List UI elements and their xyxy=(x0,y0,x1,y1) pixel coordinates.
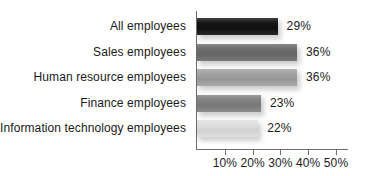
bar-chart: 10%20%30%40%50% All employees29%Sales em… xyxy=(0,0,372,176)
bar-value-label: 29% xyxy=(287,19,311,33)
bar-container xyxy=(197,69,297,86)
axis-tick xyxy=(336,150,337,155)
bar-row: Sales employees36% xyxy=(0,42,372,68)
bar-row: All employees29% xyxy=(0,16,372,42)
bar-row: Information technology employees22% xyxy=(0,118,372,144)
bar-container xyxy=(197,18,278,35)
axis-tick xyxy=(253,150,254,155)
bar xyxy=(197,95,261,112)
bar-row: Human resource employees36% xyxy=(0,67,372,93)
bar-value-label: 36% xyxy=(306,70,330,84)
value-axis-line xyxy=(196,149,348,150)
category-label: Finance employees xyxy=(80,96,186,110)
bar xyxy=(197,69,297,86)
axis-tick-label: 50% xyxy=(319,156,353,170)
bar xyxy=(197,18,278,35)
category-label: Sales employees xyxy=(93,45,186,59)
bar-value-label: 22% xyxy=(267,121,291,135)
bar xyxy=(197,44,297,61)
bar-container xyxy=(197,120,258,137)
bar-container xyxy=(197,95,261,112)
bar-value-label: 36% xyxy=(306,45,330,59)
axis-tick xyxy=(225,150,226,155)
category-label: All employees xyxy=(110,19,186,33)
plot-area: 10%20%30%40%50% All employees29%Sales em… xyxy=(0,0,372,176)
bar-container xyxy=(197,44,297,61)
category-label: Human resource employees xyxy=(34,70,186,84)
axis-tick xyxy=(308,150,309,155)
bar-value-label: 23% xyxy=(270,96,294,110)
category-label: Information technology employees xyxy=(0,121,186,135)
bar xyxy=(197,120,258,137)
bar-row: Finance employees23% xyxy=(0,93,372,119)
axis-tick xyxy=(280,150,281,155)
